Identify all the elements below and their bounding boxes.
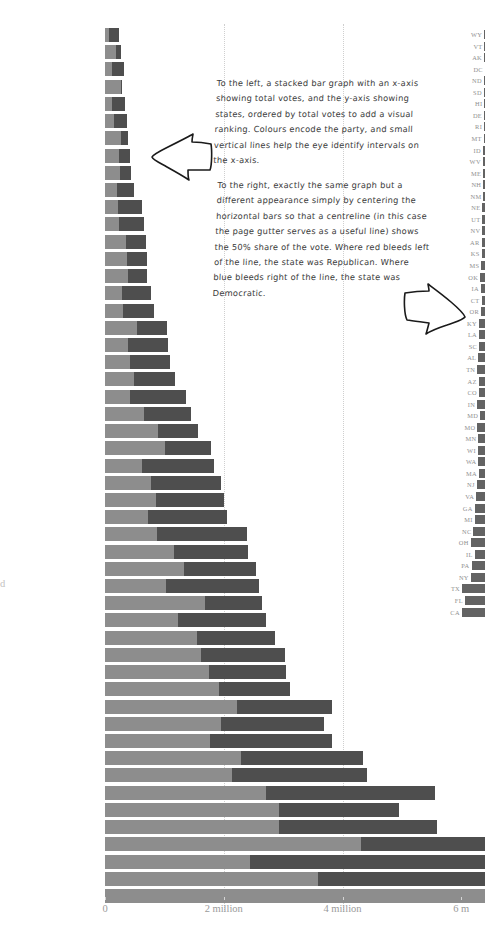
mini-chart-row: [465, 596, 485, 605]
mini-state-abbr-label: PA: [444, 561, 470, 570]
mini-state-abbr-label: IA: [453, 284, 479, 293]
mini-state-abbr-label: NH: [455, 180, 481, 189]
mini-state-abbr-label: WI: [450, 446, 476, 455]
mini-chart-row: [477, 400, 485, 409]
mini-state-abbr-label: NJ: [449, 480, 475, 489]
mini-bar-segment-republican: [471, 538, 485, 547]
mini-state-abbr-label: SD: [456, 88, 482, 97]
mini-chart-row: [475, 504, 485, 513]
mini-bar-segment-republican: [462, 608, 485, 617]
mini-state-abbr-label: CT: [454, 296, 480, 305]
mini-bar-segment-republican: [478, 446, 485, 455]
edge-artifact-glyph: d: [0, 578, 5, 589]
mini-bar-segment-republican: [471, 573, 485, 582]
mini-state-abbr-label: NE: [454, 203, 480, 212]
mini-state-abbr-label: TX: [434, 584, 460, 593]
mini-bar-segment-republican: [478, 353, 485, 362]
mini-state-abbr-label: OH: [443, 538, 469, 547]
mini-diverging-bar-chart: WYVTAKDCNDSDHIDERIMTIDWVMENHNMNEUTNVARKS…: [0, 0, 485, 949]
mini-state-abbr-label: UT: [454, 215, 480, 224]
mini-bar-segment-republican: [477, 480, 485, 489]
mini-state-abbr-label: OK: [452, 273, 478, 282]
mini-bar-segment-republican: [475, 515, 485, 524]
mini-chart-row: [477, 423, 485, 432]
mini-bar-segment-republican: [472, 561, 485, 570]
mini-state-abbr-label: AL: [450, 353, 476, 362]
mini-state-abbr-label: WV: [455, 157, 481, 166]
mini-chart-row: [481, 284, 485, 293]
mini-state-abbr-label: MT: [456, 134, 482, 143]
mini-bar-segment-republican: [477, 423, 485, 432]
mini-state-abbr-label: NM: [455, 192, 481, 201]
mini-state-abbr-label: DC: [457, 65, 483, 74]
mini-chart-row: [471, 573, 485, 582]
mini-chart-row: [478, 434, 485, 443]
mini-chart-row: [482, 296, 485, 305]
mini-state-abbr-label: NY: [443, 573, 469, 582]
mini-state-abbr-label: IN: [449, 400, 475, 409]
mini-chart-row: [471, 538, 485, 547]
mini-state-abbr-label: MD: [452, 411, 478, 420]
mini-state-abbr-label: AR: [454, 238, 480, 247]
mini-state-abbr-label: WY: [456, 30, 482, 39]
mini-chart-row: [462, 608, 485, 617]
mini-chart-row: [479, 319, 485, 328]
mini-state-abbr-label: FL: [437, 596, 463, 605]
mini-chart-row: [473, 527, 485, 536]
mini-bar-segment-republican: [475, 504, 485, 513]
mini-state-abbr-label: OR: [453, 307, 479, 316]
mini-state-abbr-label: KY: [451, 319, 477, 328]
mini-chart-row: [462, 584, 485, 593]
mini-chart-row: [481, 261, 485, 270]
mini-chart-row: [479, 342, 485, 351]
mini-state-abbr-label: MS: [453, 261, 479, 270]
mini-bar-segment-republican: [478, 434, 485, 443]
mini-chart-row: [475, 550, 485, 559]
mini-bar-segment-republican: [473, 527, 485, 536]
mini-chart-row: [472, 561, 485, 570]
mini-state-abbr-label: WA: [450, 457, 476, 466]
mini-state-abbr-label: ME: [455, 169, 481, 178]
mini-state-abbr-label: GA: [447, 504, 473, 513]
mini-chart-row: [479, 377, 485, 386]
mini-state-abbr-label: AZ: [451, 377, 477, 386]
mini-bar-segment-republican: [465, 596, 485, 605]
mini-chart-row: [476, 492, 485, 501]
mini-bar-segment-republican: [477, 400, 485, 409]
mini-chart-row: [479, 330, 485, 339]
mini-state-abbr-label: MN: [450, 434, 476, 443]
mini-chart-row: [478, 446, 485, 455]
mini-state-abbr-label: NV: [454, 226, 480, 235]
mini-state-abbr-label: HI: [456, 99, 482, 108]
mini-state-abbr-label: IL: [447, 550, 473, 559]
mini-chart-row: [478, 353, 485, 362]
mini-state-abbr-label: MI: [447, 515, 473, 524]
mini-chart-row: [477, 480, 485, 489]
mini-chart-row: [479, 469, 485, 478]
mini-state-abbr-label: AK: [456, 53, 482, 62]
mini-bar-segment-republican: [476, 492, 485, 501]
mini-state-abbr-label: NC: [445, 527, 471, 536]
mini-state-abbr-label: CA: [434, 608, 460, 617]
mini-state-abbr-label: ID: [455, 146, 481, 155]
mini-state-abbr-label: DE: [456, 111, 482, 120]
mini-chart-row: [481, 307, 485, 316]
mini-state-abbr-label: VA: [448, 492, 474, 501]
mini-chart-row: [477, 365, 485, 374]
mini-chart-row: [480, 411, 485, 420]
mini-state-abbr-label: SC: [451, 342, 477, 351]
mini-chart-row: [479, 388, 485, 397]
mini-chart-row: [480, 273, 485, 282]
mini-chart-row: [482, 249, 485, 258]
mini-state-abbr-label: MA: [451, 469, 477, 478]
mini-bar-segment-republican: [462, 584, 485, 593]
mini-chart-row: [478, 457, 485, 466]
mini-state-abbr-label: CO: [451, 388, 477, 397]
mini-state-abbr-label: LA: [451, 330, 477, 339]
mini-state-abbr-label: KS: [454, 249, 480, 258]
mini-chart-row: [475, 515, 485, 524]
mini-state-abbr-label: TN: [449, 365, 475, 374]
mini-chart-row: [482, 238, 485, 247]
mini-bar-segment-republican: [475, 550, 485, 559]
mini-state-abbr-label: RI: [456, 122, 482, 131]
